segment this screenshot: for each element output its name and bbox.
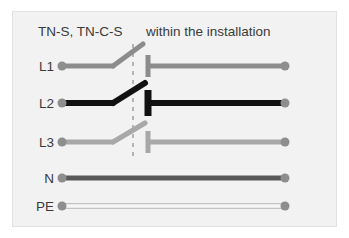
- figure-root: TN-S, TN-C-S within the installation L1 …: [0, 0, 349, 238]
- conductor-row-l3: L3: [39, 123, 290, 153]
- conductor-row-l1: L1: [39, 44, 290, 77]
- l2-left-terminal-dot: [58, 99, 67, 108]
- l1-left-terminal-dot: [58, 62, 67, 71]
- conductor-row-pe: PE: [36, 199, 290, 214]
- conductor-label-l2: L2: [39, 96, 54, 111]
- panel-border: [13, 12, 337, 227]
- l3-left-terminal-dot: [58, 138, 67, 147]
- conductor-label-pe: PE: [36, 199, 54, 214]
- conductor-label-n: N: [44, 171, 54, 186]
- pe-right-terminal-dot: [281, 202, 290, 211]
- l2-switch-blade: [113, 83, 145, 103]
- conductor-label-l1: L1: [39, 59, 54, 74]
- l2-right-terminal-dot: [281, 99, 290, 108]
- pe-left-terminal-dot: [58, 202, 67, 211]
- right-title: within the installation: [145, 24, 271, 39]
- n-left-terminal-dot: [58, 174, 67, 183]
- conductor-row-n: N: [44, 171, 289, 186]
- l1-switch-blade: [113, 44, 143, 66]
- conductor-row-l2: L2: [39, 83, 290, 116]
- l1-right-terminal-dot: [281, 62, 290, 71]
- left-title: TN-S, TN-C-S: [38, 24, 123, 39]
- n-right-terminal-dot: [281, 174, 290, 183]
- l3-right-terminal-dot: [281, 138, 290, 147]
- conductor-label-l3: L3: [39, 135, 54, 150]
- earthing-system-diagram: TN-S, TN-C-S within the installation L1 …: [0, 0, 349, 238]
- l3-switch-blade: [113, 123, 145, 142]
